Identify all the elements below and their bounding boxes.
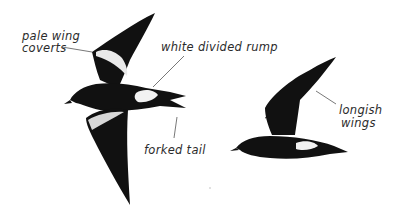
leader-line-forked-tail — [174, 117, 177, 138]
right-bird — [230, 57, 348, 159]
leader-line-white-divided-rump — [153, 56, 184, 87]
label-forked-tail: forked tail — [144, 144, 206, 156]
illustration: pale wing coverts white divided rump for… — [0, 0, 397, 217]
label-white-divided-rump: white divided rump — [161, 41, 278, 53]
speck — [209, 187, 211, 189]
label-longish-wings-2: wings — [341, 117, 376, 129]
label-pale-wing-coverts-2: coverts — [22, 42, 67, 54]
leader-line-longish-wings — [316, 91, 336, 104]
label-longish-wings-1: longish — [339, 104, 382, 116]
